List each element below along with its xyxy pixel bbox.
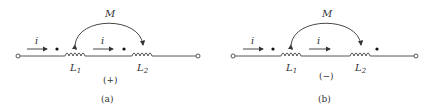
current-label: i — [251, 35, 254, 46]
current-label: i — [101, 35, 104, 46]
inductor-l1-icon — [281, 53, 301, 56]
mutual-coupling-arrow-icon — [291, 23, 361, 45]
inductor-l2-label: L2 — [136, 62, 149, 75]
terminal-right-icon — [196, 54, 200, 58]
mutual-coupling-arrow-icon — [75, 23, 143, 45]
inductor-l2-label: L2 — [354, 62, 367, 75]
panel-b: i i M L1 L2 (−) (b) — [231, 8, 418, 104]
inductor-l1-label: L1 — [69, 62, 81, 75]
polarity-dot-icon — [122, 47, 125, 50]
terminal-right-icon — [414, 54, 418, 58]
panel-caption: (b) — [318, 94, 331, 104]
mutual-inductance-label: M — [321, 8, 333, 19]
panel-caption: (a) — [101, 94, 113, 104]
coupled-inductors-diagram: i i M L1 L2 (+) (a) i i M L1 L2 (−) (b) — [0, 0, 432, 112]
mutual-inductance-label: M — [104, 8, 116, 19]
terminal-left-icon — [231, 54, 235, 58]
inductor-l1-icon — [65, 53, 85, 56]
polarity-dot-icon — [55, 47, 58, 50]
polarity-dot-icon — [375, 47, 378, 50]
current-label: i — [317, 35, 320, 46]
terminal-left-icon — [16, 54, 20, 58]
inductor-l2-icon — [350, 53, 370, 56]
inductor-l1-label: L1 — [285, 62, 297, 75]
panel-a: i i M L1 L2 (+) (a) — [16, 8, 200, 104]
inductor-l2-icon — [132, 53, 152, 56]
sign-label: (−) — [319, 71, 334, 81]
polarity-dot-icon — [271, 47, 274, 50]
current-label: i — [35, 35, 38, 46]
sign-label: (+) — [103, 75, 118, 85]
